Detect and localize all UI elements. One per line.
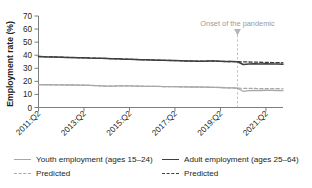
x-tick-label: 2015:Q2 <box>105 109 134 138</box>
y-axis-ticks: 010203040506070 <box>23 12 39 113</box>
legend-label-adult-predicted: Predicted <box>184 168 218 179</box>
y-tick-label: 10 <box>23 90 33 99</box>
legend-item-adult-employment: Adult employment (ages 25–64) <box>162 154 306 165</box>
x-axis-ticks: 2011:Q22013:Q22015:Q22017:Q22019:Q22021:… <box>14 108 270 138</box>
y-axis-title: Employment rate (%) <box>5 21 15 107</box>
legend-label-youth-employment: Youth employment (ages 15–24) <box>36 154 153 165</box>
legend-item-youth-predicted: Predicted <box>14 168 154 179</box>
x-tick-label: 2013:Q2 <box>59 109 88 138</box>
pandemic-annotation-text: Onset of the pandemic <box>200 19 275 28</box>
legend-swatch-adult-solid <box>162 159 179 160</box>
y-tick-label: 60 <box>23 25 33 34</box>
legend-column-adult: Adult employment (ages 25–64) Predicted <box>162 154 306 179</box>
legend-swatch-youth-solid <box>14 159 31 160</box>
down-arrow-icon <box>234 29 241 36</box>
legend-item-youth-employment: Youth employment (ages 15–24) <box>14 154 154 165</box>
series-line <box>39 57 284 65</box>
legend-swatch-adult-dashed <box>162 173 179 174</box>
legend-label-youth-predicted: Predicted <box>36 168 70 179</box>
y-tick-label: 20 <box>23 77 33 86</box>
y-tick-label: 50 <box>23 38 33 47</box>
y-axis-title-text: Employment rate (%) <box>5 21 15 107</box>
legend-label-adult-employment: Adult employment (ages 25–64) <box>184 154 299 165</box>
legend-column-youth: Youth employment (ages 15–24) Predicted <box>14 154 154 179</box>
y-tick-label: 0 <box>27 104 32 113</box>
legend-swatch-youth-dashed <box>14 173 31 174</box>
chart-figure: Employment rate (%) 010203040506070 2011… <box>0 0 312 188</box>
y-tick-label: 70 <box>23 12 33 21</box>
x-tick-label: 2021:Q2 <box>241 109 270 138</box>
x-tick-label: 2011:Q2 <box>14 109 42 137</box>
y-tick-label: 40 <box>23 51 33 60</box>
chart-legend: Youth employment (ages 15–24) Predicted … <box>14 154 306 179</box>
legend-item-adult-predicted: Predicted <box>162 168 306 179</box>
x-tick-label: 2017:Q2 <box>150 109 179 138</box>
y-tick-label: 30 <box>23 64 33 73</box>
x-tick-label: 2019:Q2 <box>196 109 225 138</box>
chart-series-lines <box>39 57 284 92</box>
